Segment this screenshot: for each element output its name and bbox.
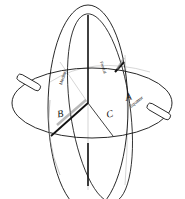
slot-left [16, 73, 42, 92]
slot-right [146, 102, 172, 121]
diagram: B C A Median Frontal Equator [0, 0, 185, 199]
planes-diagram: B C A Median Frontal Equator [0, 0, 185, 199]
plane-a-equator [12, 68, 172, 138]
plane-b-letter: B [56, 108, 64, 120]
plane-a-letter: A [123, 90, 134, 103]
plane-c-caption: Frontal [99, 61, 108, 74]
plane-c-letter: C [105, 107, 115, 119]
plane-b-caption: Median [58, 69, 67, 85]
